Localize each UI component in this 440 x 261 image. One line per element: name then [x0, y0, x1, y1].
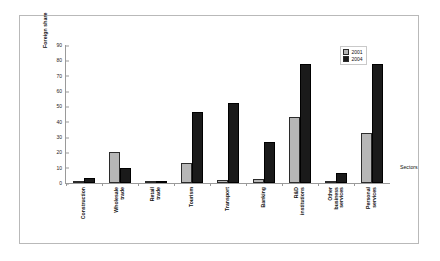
x-axis-tick-mark [174, 183, 175, 186]
bar-group: Construction [66, 45, 102, 183]
y-axis-tick-label: 30 [56, 135, 66, 140]
x-axis-tick-mark [282, 183, 283, 186]
x-axis-category-label: Banking [261, 187, 267, 207]
bar [181, 163, 192, 183]
bar [192, 112, 203, 183]
y-axis-tick-label: 0 [59, 181, 66, 186]
bar-group: Tourism [174, 45, 210, 183]
y-axis-tick-label: 50 [56, 104, 66, 109]
chart-legend: 20012004 [340, 46, 367, 65]
y-axis-tick-label: 70 [56, 73, 66, 78]
x-axis-tick-mark [102, 183, 103, 186]
y-axis-title: Foreign share [42, 0, 48, 48]
bar [217, 180, 228, 183]
bar [289, 117, 300, 183]
x-axis-category-label: Personalservices [366, 187, 377, 209]
x-axis-tick-mark [210, 183, 211, 186]
x-axis-category-label: Retailtrade [150, 187, 161, 201]
x-axis-tick-mark [318, 183, 319, 186]
bar-group: R&Dinstitutions [282, 45, 318, 183]
y-axis-tick-label: 60 [56, 89, 66, 94]
x-axis-tick-mark [138, 183, 139, 186]
bar [361, 133, 372, 183]
bar-group: Transport [210, 45, 246, 183]
bar [325, 181, 336, 183]
x-axis-tick-mark [246, 183, 247, 186]
x-axis-category-label: Wholesaletrade [114, 187, 125, 213]
bar [156, 181, 167, 183]
legend-swatch-icon [343, 56, 349, 62]
bar [109, 152, 120, 183]
bar-group: Wholesaletrade [102, 45, 138, 183]
bar [120, 168, 131, 183]
x-axis-category-label: Transport [225, 187, 231, 211]
bar [145, 181, 156, 183]
x-axis-category-label: Otherbusinessservices [328, 187, 345, 210]
bar-group: Personalservices [354, 45, 390, 183]
x-axis-tick-mark [66, 183, 67, 186]
x-axis-category-label: R&Dinstitutions [294, 187, 305, 215]
legend-label: 2004 [352, 56, 363, 63]
y-axis-tick-label: 10 [56, 165, 66, 170]
bar [84, 178, 95, 183]
bar [228, 103, 239, 184]
x-axis-category-label: Tourism [189, 187, 195, 207]
x-axis-category-label: Construction [81, 187, 87, 219]
bar [264, 142, 275, 183]
bar-group: Banking [246, 45, 282, 183]
chart-figure: Foreign share 0102030405060708090 Constr… [19, 15, 419, 244]
plot-area: 0102030405060708090 ConstructionWholesal… [65, 45, 390, 184]
x-axis-title: Sectors [400, 164, 418, 170]
bar-series-container: ConstructionWholesaletradeRetailtradeTou… [66, 45, 390, 183]
legend-item: 2004 [343, 56, 363, 63]
y-axis-tick-label: 90 [56, 43, 66, 48]
bar [253, 179, 264, 183]
bar [372, 64, 383, 183]
y-axis-tick-label: 40 [56, 119, 66, 124]
y-axis-tick-label: 80 [56, 58, 66, 63]
y-axis-tick-label: 20 [56, 150, 66, 155]
bar-group: Retailtrade [138, 45, 174, 183]
bar-group: Otherbusinessservices [318, 45, 354, 183]
x-axis-tick-mark [354, 183, 355, 186]
legend-swatch-icon [343, 49, 349, 55]
bar [336, 173, 347, 183]
bar [73, 181, 84, 183]
bar [300, 64, 311, 183]
